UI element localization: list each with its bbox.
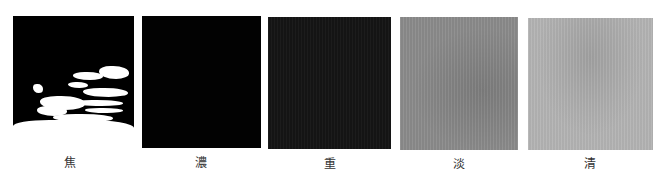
label-dan: 淡 — [439, 157, 479, 171]
label-nong: 濃 — [181, 156, 221, 170]
label-qing: 清 — [570, 157, 610, 171]
label-zhong: 重 — [310, 157, 350, 171]
label-jiao: 焦 — [50, 156, 90, 170]
ink-sample-zhong — [268, 17, 391, 149]
ink-sample-jiao — [13, 16, 134, 137]
ink-sample-dan — [400, 17, 518, 150]
ink-tone-figure: 焦 濃 重 淡 清 — [0, 0, 663, 188]
ink-sample-nong — [142, 16, 261, 148]
ink-sample-qing — [528, 18, 653, 150]
